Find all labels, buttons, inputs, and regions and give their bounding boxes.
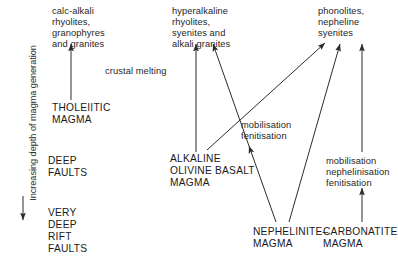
process-mobilisation-fenitisation: mobilisation fenitisation	[241, 120, 291, 142]
depth-marker-very-deep-rift-faults: VERY DEEP RIFT FAULTS	[48, 207, 87, 255]
process-mobilisation-nephelinisation-fenitisation: mobilisation nephelinisation fenitisatio…	[326, 156, 390, 189]
edge-nephelinite-to-phonolites	[289, 44, 340, 222]
depth-marker-deep-faults: DEEP FAULTS	[48, 155, 87, 179]
magma-tholeiitic: THOLEIITIC MAGMA	[52, 102, 111, 126]
magma-nephelinite: NEPHELINITE– MAGMA	[253, 226, 328, 250]
product-hyperalkaline-suite: hyperalkaline rhyolites, syenites and al…	[172, 6, 230, 50]
magma-generation-diagram: Increasing depth of magma generation cal…	[0, 0, 398, 265]
magma-carbonatite: CARBONATITE MAGMA	[323, 226, 397, 250]
magma-alkaline-olivine-basalt: ALKALINE OLIVINE BASALT MAGMA	[170, 153, 255, 189]
product-calc-alkali-suite: calc-alkali rhyolites, granophyres and g…	[52, 6, 105, 50]
product-phonolite-suite: phonolites, nepheline syenites	[318, 6, 364, 39]
process-crustal-melting: crustal melting	[105, 66, 166, 77]
